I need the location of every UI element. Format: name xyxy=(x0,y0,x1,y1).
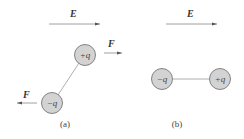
positive-charge-a: +q xyxy=(75,45,96,66)
positive-charge-b: +q xyxy=(210,69,231,90)
positive-charge-label-a: +q xyxy=(80,50,91,60)
force-label-left-a: F xyxy=(22,89,30,100)
negative-charge-b: −q xyxy=(152,69,173,90)
electric-field-arrow-b: E xyxy=(166,8,217,24)
positive-charge-label-b: +q xyxy=(215,74,226,84)
panel-b: E −q +q (b) xyxy=(152,8,231,129)
negative-charge-label-b: −q xyxy=(157,74,168,84)
negative-charge-a: −q xyxy=(42,93,63,114)
force-arrow-right-a: F xyxy=(104,38,122,53)
panel-a: E +q F −q F (a) xyxy=(17,8,122,129)
caption-a: (a) xyxy=(60,119,70,129)
electric-field-arrow-a: E xyxy=(49,8,100,24)
negative-charge-label-a: −q xyxy=(47,98,58,108)
caption-b: (b) xyxy=(172,119,183,129)
force-arrow-left-a: F xyxy=(17,89,37,103)
dipole-diagram: E +q F −q F (a) E −q xyxy=(0,0,244,139)
field-label-b: E xyxy=(186,8,194,19)
force-label-right-a: F xyxy=(107,38,115,49)
field-label-a: E xyxy=(69,8,77,19)
dipole-rod-a xyxy=(58,63,79,95)
